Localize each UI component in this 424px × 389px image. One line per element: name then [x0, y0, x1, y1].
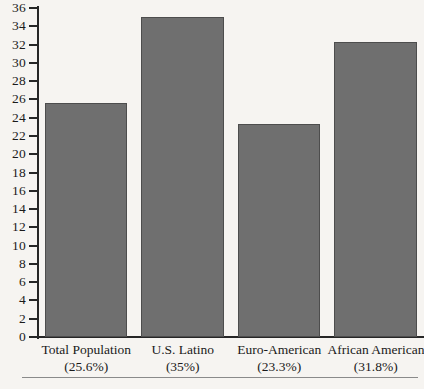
y-axis-tick-mark — [29, 172, 38, 174]
y-axis-tick-mark — [29, 245, 38, 247]
y-axis-tick-mark — [29, 80, 38, 82]
y-axis-tick-label: 20 — [12, 147, 26, 161]
footer-rule — [22, 377, 418, 378]
category-percentage: (23.3%) — [231, 358, 328, 375]
y-axis-tick-label: 16 — [12, 184, 26, 198]
y-axis-tick-label: 12 — [12, 220, 26, 234]
y-axis-tick-mark — [29, 263, 38, 265]
y-axis-tick-label: 26 — [12, 92, 26, 106]
y-axis-tick-mark — [29, 299, 38, 301]
y-axis-tick-mark — [29, 117, 38, 119]
x-axis-category-label: U.S. Latino(35%) — [135, 341, 232, 375]
x-axis-category-labels: Total Population(25.6%)U.S. Latino(35%)E… — [38, 341, 424, 387]
bar-chart-figure: 024681012141618202224262830323436 Total … — [0, 0, 424, 389]
y-axis-tick-mark — [29, 190, 38, 192]
category-name: U.S. Latino — [135, 341, 232, 358]
y-axis-tick-label: 8 — [19, 257, 26, 271]
bar — [141, 17, 224, 337]
y-axis-tick-label: 2 — [19, 312, 26, 326]
y-axis-tick-label: 32 — [12, 38, 26, 52]
x-axis-category-label: Euro-American(23.3%) — [231, 341, 328, 375]
category-name: African American — [328, 341, 424, 358]
y-axis-tick-label: 14 — [12, 202, 26, 216]
y-axis-tick-label: 22 — [12, 129, 26, 143]
y-axis-tick-mark — [29, 208, 38, 210]
y-axis-tick-mark — [29, 44, 38, 46]
category-percentage: (35%) — [135, 358, 232, 375]
y-axis-tick-label: 6 — [19, 275, 26, 289]
y-axis-tick-mark — [29, 62, 38, 64]
bar — [238, 124, 321, 337]
y-axis-tick-label: 36 — [12, 1, 26, 15]
y-axis-tick-mark — [29, 7, 38, 9]
category-percentage: (31.8%) — [328, 358, 424, 375]
y-axis-tick-mark — [29, 25, 38, 27]
y-axis-tick-mark — [29, 226, 38, 228]
category-name: Euro-American — [231, 341, 328, 358]
y-axis-tick-label: 4 — [19, 293, 26, 307]
y-axis-tick-mark — [29, 318, 38, 320]
y-axis-tick-label: 18 — [12, 165, 26, 179]
x-axis-category-label: African American(31.8%) — [328, 341, 424, 375]
y-axis-tick-mark — [29, 153, 38, 155]
bar — [334, 42, 417, 337]
y-axis-tick-label: 10 — [12, 239, 26, 253]
y-axis-tick-label: 28 — [12, 74, 26, 88]
y-axis-tick-label: 30 — [12, 56, 26, 70]
bar — [45, 103, 128, 337]
category-percentage: (25.6%) — [38, 358, 135, 375]
y-axis-tick-label: 34 — [12, 19, 26, 33]
y-axis-tick-label: 0 — [19, 330, 26, 344]
y-axis-tick-mark — [29, 281, 38, 283]
y-axis-tick-mark — [29, 98, 38, 100]
category-name: Total Population — [38, 341, 135, 358]
x-axis-category-label: Total Population(25.6%) — [38, 341, 135, 375]
y-axis-tick-mark — [29, 336, 38, 338]
y-axis-tick-label: 24 — [12, 111, 26, 125]
plot-area: 024681012141618202224262830323436 — [38, 8, 424, 337]
y-axis-tick-mark — [29, 135, 38, 137]
